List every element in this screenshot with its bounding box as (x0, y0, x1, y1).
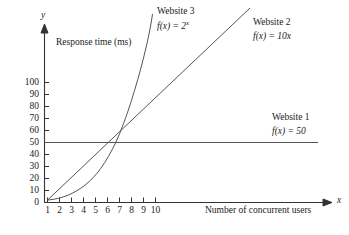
y-axis (41, 24, 48, 203)
y-tick-label: 10 (17, 185, 39, 196)
y-tick-label: 0 (17, 197, 39, 208)
x-tick-label: 10 (149, 205, 163, 216)
equation-exponent-website3: x (186, 19, 189, 27)
series-equation-website2: f(x) = 10x (253, 31, 291, 42)
y-tick-label: 20 (17, 173, 39, 184)
response-time-chart: y Response time (ms) 100 90 80 70 60 50 … (0, 0, 349, 235)
equation-text-website3: f(x) = 2 (157, 21, 186, 31)
series-label-website2: Website 2 (253, 17, 291, 28)
series-label-website3: Website 3 (157, 6, 195, 17)
series-equation-website3: f(x) = 2x (157, 20, 189, 32)
y-tick-label: 80 (17, 101, 39, 112)
x-axis-variable-label: x (337, 195, 341, 206)
series-equation-website1: f(x) = 50 (272, 126, 306, 137)
x-axis-ticks (48, 198, 156, 203)
y-tick-label: 50 (17, 137, 39, 148)
y-axis-variable-label: y (41, 10, 45, 21)
y-tick-label: 30 (17, 161, 39, 172)
x-axis-title: Number of concurrent users (205, 205, 311, 216)
y-tick-label: 70 (17, 113, 39, 124)
y-tick-label: 60 (17, 125, 39, 136)
series-label-website1: Website 1 (272, 112, 310, 123)
y-tick-label: 90 (17, 89, 39, 100)
y-axis-title: Response time (ms) (56, 37, 131, 48)
y-tick-label: 40 (17, 149, 39, 160)
y-tick-label: 100 (17, 77, 39, 88)
